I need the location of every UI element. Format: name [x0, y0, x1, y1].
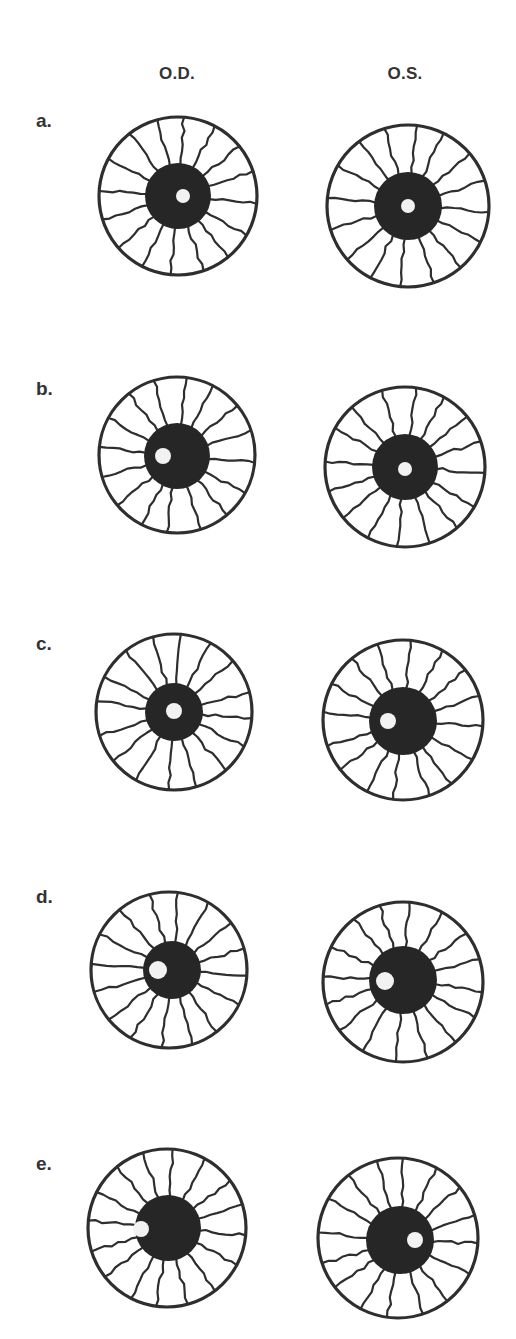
corneal-reflex	[401, 199, 415, 213]
eye-e-od	[88, 1149, 246, 1307]
corneal-reflex	[155, 448, 171, 464]
corneal-reflex	[407, 1232, 423, 1248]
corneal-reflex	[176, 189, 190, 203]
eye-diagram	[0, 0, 516, 1339]
eye-e-os	[318, 1158, 478, 1318]
eye-a-os	[327, 125, 489, 287]
corneal-reflex	[376, 972, 394, 990]
pupil	[369, 687, 437, 755]
corneal-reflex	[380, 713, 396, 729]
eye-d-od	[91, 892, 247, 1048]
corneal-reflex	[398, 462, 412, 476]
eye-c-os	[323, 640, 483, 800]
eye-b-od	[99, 377, 255, 533]
eye-d-os	[323, 902, 483, 1062]
pupil	[144, 423, 210, 489]
corneal-reflex	[133, 1221, 149, 1237]
pupil	[366, 1206, 434, 1274]
eye-c-od	[96, 634, 252, 790]
eye-b-os	[325, 387, 485, 547]
corneal-reflex	[166, 703, 182, 719]
eye-a-od	[99, 117, 257, 275]
corneal-reflex	[149, 961, 167, 979]
